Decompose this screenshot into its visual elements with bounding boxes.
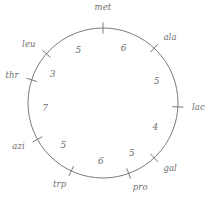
marker-label-pro: pro: [133, 183, 148, 192]
interval-distance-gal-pro: 5: [129, 149, 135, 158]
interval-distance-lac-gal: 4: [153, 123, 159, 132]
interval-distance-thr-leu: 3: [50, 70, 56, 79]
circular-genetic-map-figure: metalalacgalprotrpazithrleu 654565735: [0, 0, 213, 202]
interval-distance-pro-trp: 6: [98, 157, 104, 166]
interval-distance-azi-thr: 7: [42, 104, 48, 113]
marker-label-leu: leu: [22, 40, 36, 49]
marker-label-trp: trp: [53, 180, 66, 189]
marker-tick-trp: [69, 166, 74, 176]
marker-label-met: met: [95, 3, 112, 12]
interval-distance-ala-lac: 5: [154, 77, 160, 86]
marker-tick-azi: [33, 137, 43, 142]
marker-label-thr: thr: [5, 71, 18, 80]
marker-label-gal: gal: [163, 164, 177, 173]
marker-label-azi: azi: [12, 142, 25, 151]
map-canvas: [0, 0, 213, 202]
marker-label-ala: ala: [163, 33, 176, 42]
interval-distance-met-ala: 6: [121, 44, 127, 53]
interval-distance-leu-met: 5: [76, 46, 82, 55]
marker-tick-group: [26, 23, 183, 179]
marker-tick-lac: [172, 107, 183, 108]
marker-label-lac: lac: [192, 103, 205, 112]
interval-distance-trp-azi: 5: [60, 141, 66, 150]
